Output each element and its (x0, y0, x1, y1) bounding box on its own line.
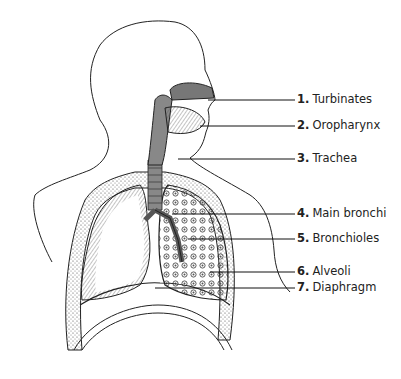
label-trachea: 3.Trachea (297, 153, 357, 165)
label-bronchioles: 5.Bronchioles (297, 233, 379, 245)
label-turbinates: 1.Turbinates (297, 94, 372, 106)
label-alveoli: 6.Alveoli (297, 266, 351, 278)
label-diaphragm: 7.Diaphragm (297, 282, 376, 294)
label-oropharynx: 2.Oropharynx (297, 120, 380, 132)
nasal-cavity (170, 83, 214, 100)
trachea (148, 160, 162, 210)
respiratory-diagram (0, 0, 401, 379)
label-main-bronchi: 4.Main bronchi (297, 208, 386, 220)
oral-cavity (165, 107, 205, 134)
